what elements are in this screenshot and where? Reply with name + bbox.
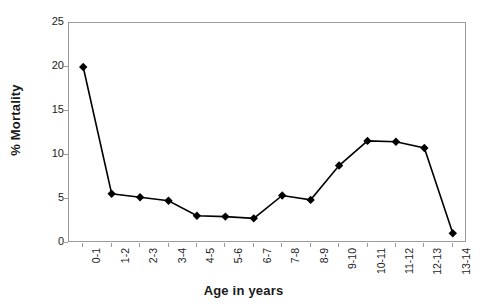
- x-axis-tick-label: 4-5: [203, 248, 217, 288]
- x-axis-title: Age in years: [0, 283, 487, 298]
- x-axis-tick-label: 12-13: [430, 248, 444, 288]
- x-axis-tick-mark: [367, 243, 368, 247]
- data-point-marker: [420, 144, 428, 152]
- plot-area: [68, 22, 466, 242]
- x-axis-tick-mark: [196, 243, 197, 247]
- x-axis-tick-label: 6-7: [260, 248, 274, 288]
- y-axis-tick-mark: [63, 110, 68, 111]
- x-axis-tick-mark: [423, 243, 424, 247]
- x-axis-tick-mark: [82, 243, 83, 247]
- data-point-marker: [164, 197, 172, 205]
- x-axis-tick-label: 2-3: [146, 248, 160, 288]
- x-axis-tick-label: 7-8: [288, 248, 302, 288]
- data-point-marker: [79, 63, 87, 71]
- x-axis-tick-label: 5-6: [231, 248, 245, 288]
- x-axis-tick-label: 8-9: [317, 248, 331, 288]
- x-axis-tick-labels: 0-11-22-33-44-55-66-77-88-99-1010-1111-1…: [68, 243, 466, 288]
- y-axis-tick-mark: [63, 242, 68, 243]
- y-axis-tick-label: 15: [16, 104, 64, 115]
- chart-figure: % Mortality 0510152025 0-11-22-33-44-55-…: [0, 0, 487, 306]
- x-axis-tick-mark: [281, 243, 282, 247]
- x-axis-tick-label: 1-2: [118, 248, 132, 288]
- data-point-marker: [107, 190, 115, 198]
- x-axis-tick-label: 10-11: [374, 248, 388, 288]
- x-axis-tick-mark: [224, 243, 225, 247]
- data-point-marker: [136, 193, 144, 201]
- x-axis-tick-label: 13-14: [459, 248, 473, 288]
- x-axis-tick-mark: [310, 243, 311, 247]
- mortality-line: [83, 67, 453, 233]
- x-axis-tick-mark: [395, 243, 396, 247]
- y-axis-tick-label: 5: [16, 192, 64, 203]
- x-axis-tick-label: 11-12: [402, 248, 416, 288]
- x-axis-tick-mark: [139, 243, 140, 247]
- data-point-marker: [449, 229, 457, 237]
- y-axis-tick-label: 0: [16, 236, 64, 247]
- x-axis-tick-label: 0-1: [89, 248, 103, 288]
- mortality-markers: [79, 63, 457, 238]
- x-axis-tick-label: 9-10: [345, 248, 359, 288]
- y-axis-tick-mark: [63, 66, 68, 67]
- x-axis-tick-mark: [253, 243, 254, 247]
- data-point-marker: [221, 212, 229, 220]
- y-axis-tick-label: 25: [16, 16, 64, 27]
- x-axis-tick-mark: [168, 243, 169, 247]
- x-axis-tick-mark: [452, 243, 453, 247]
- line-series-svg: [69, 23, 467, 243]
- y-axis-tick-label: 10: [16, 148, 64, 159]
- y-axis-tick-mark: [63, 154, 68, 155]
- x-axis-tick-mark: [111, 243, 112, 247]
- data-point-marker: [392, 138, 400, 146]
- x-axis-tick-mark: [338, 243, 339, 247]
- y-axis-tick-mark: [63, 198, 68, 199]
- y-axis-tick-labels: 0510152025: [8, 0, 64, 306]
- x-axis-tick-label: 3-4: [175, 248, 189, 288]
- data-point-marker: [193, 212, 201, 220]
- y-axis-tick-label: 20: [16, 60, 64, 71]
